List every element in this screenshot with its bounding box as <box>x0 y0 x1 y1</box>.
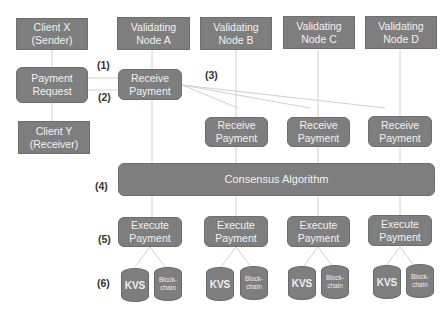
node-a-blockchain-database-icon: Block- chain <box>154 267 182 301</box>
step-6-label: (6) <box>97 277 110 289</box>
node-c-header: Validating Node C <box>283 16 355 49</box>
node-b-execute-payment: Execute Payment <box>204 216 268 247</box>
node-d-receive-payment: Receive Payment <box>368 116 432 147</box>
node-b-header: Validating Node B <box>200 17 272 50</box>
payment-request: Payment Request <box>16 67 88 103</box>
node-d-execute-payment: Execute Payment <box>368 215 432 246</box>
node-c-kvs-database-icon: KVS <box>288 266 316 300</box>
node-b-blockchain-database-icon: Block- chain <box>240 266 268 300</box>
node-c-receive-payment: Receive Payment <box>287 117 350 147</box>
step-5-label: (5) <box>98 233 111 245</box>
node-a-execute-payment: Execute Payment <box>118 217 182 247</box>
consensus-algorithm: Consensus Algorithm <box>118 163 435 196</box>
node-d-blockchain-database-icon: Block- chain <box>406 264 434 298</box>
step-2-label: (2) <box>98 91 111 103</box>
node-d-header: Validating Node D <box>365 16 437 49</box>
node-b-kvs-database-icon: KVS <box>206 267 234 301</box>
node-b-receive-payment: Receive Payment <box>205 117 268 147</box>
step-3-label: (3) <box>205 69 218 81</box>
client-x-sender: Client X (Sender) <box>16 18 88 50</box>
node-a-receive-payment: Receive Payment <box>118 69 182 100</box>
client-y-receiver: Client Y (Receiver) <box>18 121 90 154</box>
node-a-header: Validating Node A <box>117 17 190 50</box>
step-1-label: (1) <box>97 59 110 71</box>
node-a-kvs-database-icon: KVS <box>121 268 149 302</box>
node-c-execute-payment: Execute Payment <box>287 216 350 247</box>
node-c-blockchain-database-icon: Block- chain <box>321 265 349 299</box>
node-d-kvs-database-icon: KVS <box>373 265 401 299</box>
step-4-label: (4) <box>95 180 108 192</box>
